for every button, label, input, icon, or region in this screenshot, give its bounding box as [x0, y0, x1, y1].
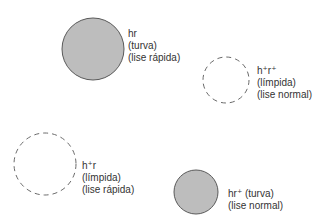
- appearance: (turva): [128, 40, 180, 52]
- lysis-type: (lise rápida): [82, 184, 134, 196]
- genotype: h⁺r⁺: [257, 65, 312, 77]
- label-h+r+: h⁺r⁺ (límpida) (lise normal): [257, 65, 312, 101]
- lysis-type: (lise rápida): [128, 52, 180, 64]
- lysis-type: (lise normal): [228, 200, 283, 212]
- appearance: (límpida): [82, 172, 134, 184]
- genotype: hr: [128, 28, 180, 40]
- label-h+r: h⁺r (límpida) (lise rápida): [82, 160, 134, 196]
- genotype-appearance: hr⁺ (turva): [228, 188, 283, 200]
- lysis-type: (lise normal): [257, 89, 312, 101]
- genotype: h⁺r: [82, 160, 134, 172]
- plaque-h+r+-clear-small: [203, 57, 249, 103]
- label-hr: hr (turva) (lise rápida): [128, 28, 180, 64]
- appearance: (límpida): [257, 77, 312, 89]
- label-hr+: hr⁺ (turva) (lise normal): [228, 188, 283, 212]
- plaque-hr-turbid-large: [62, 18, 124, 80]
- plaque-h+r-clear-large: [14, 133, 76, 195]
- plaque-hr+-turbid-small: [174, 170, 218, 214]
